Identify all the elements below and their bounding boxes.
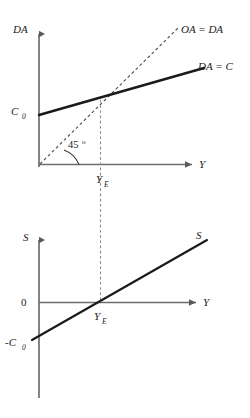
neg-c0-text: -C (5, 336, 17, 348)
diagram-canvas: DA Y OA = DA DA = C C 0 45 o Y E (0, 0, 250, 418)
aggregate-demand-line-label: DA = C (197, 60, 233, 72)
angle-value: 45 (68, 139, 79, 150)
aggregate-demand-line (39, 68, 204, 115)
upper-equilibrium-label: Y E (96, 173, 109, 189)
degree-icon: o (82, 138, 86, 146)
forty-five-degree-line-label: OA = DA (181, 23, 223, 35)
saving-line-label: S (196, 229, 202, 241)
upper-intercept-label: C 0 (11, 105, 26, 121)
zero-tick-label: 0 (21, 296, 27, 308)
ye-text-lower: Y (94, 310, 102, 322)
lower-x-axis-label: Y (203, 296, 211, 308)
upper-y-axis-label: DA (12, 23, 28, 35)
lower-intercept-label: -C 0 (5, 336, 26, 352)
c0-text: C (11, 105, 19, 117)
c0-subscript: 0 (22, 112, 26, 121)
ye-text: Y (96, 173, 104, 185)
neg-c0-subscript: 0 (22, 343, 26, 352)
lower-y-axis-label: S (23, 231, 29, 243)
lower-equilibrium-label: Y E (94, 310, 107, 326)
upper-x-axis-label: Y (199, 158, 207, 170)
angle-arc (64, 150, 79, 165)
economics-diagram: DA Y OA = DA DA = C C 0 45 o Y E (0, 0, 250, 418)
angle-label: 45 o (68, 138, 86, 151)
saving-line (32, 240, 207, 340)
upper-chart: DA Y OA = DA DA = C C 0 45 o Y E (11, 23, 233, 302)
ye-subscript-lower: E (101, 317, 107, 326)
lower-chart: S Y 0 -C 0 S Y E (5, 229, 211, 398)
ye-subscript: E (103, 180, 109, 189)
